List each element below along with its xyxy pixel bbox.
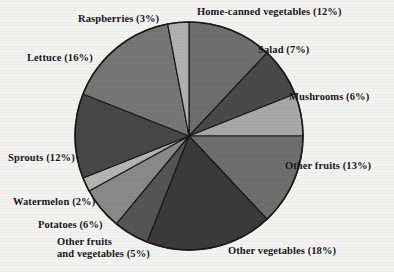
pie-label-other-fruits-and-vegetables: Other fruits and vegetables (5%) [57, 236, 150, 259]
pie-label-sprouts: Sprouts (12%) [8, 152, 75, 164]
pie-label-other-fruits: Other fruits (13%) [285, 160, 371, 172]
pie-label-lettuce: Lettuce (16%) [27, 52, 93, 64]
pie-label-raspberries: Raspberries (3%) [78, 13, 159, 25]
pie-label-potatoes: Potatoes (6%) [38, 219, 103, 231]
pie-label-other-vegetables: Other vegetables (18%) [228, 245, 336, 257]
pie-label-mushrooms: Mushrooms (6%) [289, 91, 369, 103]
pie-chart-figure: Home-canned vegetables (12%) Salad (7%) … [0, 0, 394, 272]
pie-chart-canvas [0, 0, 394, 272]
pie-slice-group [75, 22, 303, 250]
pie-label-home-canned-vegetables: Home-canned vegetables (12%) [197, 6, 342, 18]
pie-label-salad: Salad (7%) [258, 44, 309, 56]
pie-label-watermelon: Watermelon (2%) [13, 196, 95, 208]
